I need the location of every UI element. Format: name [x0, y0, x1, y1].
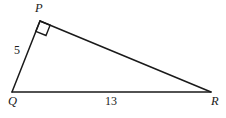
- vertex-label-p: P: [35, 2, 43, 15]
- side-pr-line: [40, 21, 211, 92]
- geometry-figure: P Q R 5 13: [0, 0, 226, 118]
- vertex-label-q: Q: [8, 95, 17, 108]
- side-length-label-pq: 5: [14, 44, 20, 56]
- side-length-label-qr: 13: [105, 95, 117, 107]
- vertex-label-r: R: [211, 95, 219, 108]
